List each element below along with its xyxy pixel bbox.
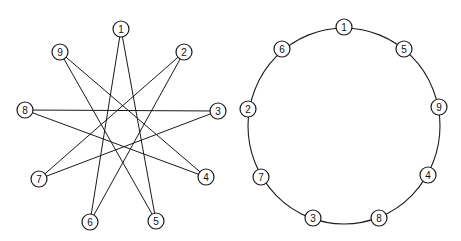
edge-7-2 (39, 52, 184, 179)
ring-node-4: 4 (420, 167, 436, 183)
node-label: 9 (57, 47, 63, 58)
node-label: 5 (153, 216, 159, 227)
edge-3-7 (39, 111, 218, 179)
star-polygon-diagram: 123456789 (17, 21, 226, 230)
ring-node-2: 2 (240, 101, 256, 117)
node-label: 7 (36, 174, 42, 185)
node-label: 6 (279, 44, 285, 55)
star-node-9: 9 (52, 44, 68, 60)
edge-1-5 (121, 29, 156, 221)
node-label: 3 (310, 213, 316, 224)
ring-node-8: 8 (371, 210, 387, 226)
node-label: 8 (376, 213, 382, 224)
node-label: 3 (215, 106, 221, 117)
ring-node-1: 1 (336, 19, 352, 35)
star-node-2: 2 (176, 44, 192, 60)
ring-node-9: 9 (431, 99, 447, 115)
star-node-8: 8 (17, 102, 33, 118)
node-label: 1 (118, 24, 124, 35)
star-node-3: 3 (210, 103, 226, 119)
star-node-5: 5 (148, 213, 164, 229)
ring-node-3: 3 (305, 210, 321, 226)
node-label: 5 (401, 44, 407, 55)
star-node-6: 6 (82, 214, 98, 230)
ring-node-7: 7 (253, 169, 269, 185)
ring-node-5: 5 (396, 41, 412, 57)
node-label: 1 (341, 22, 347, 33)
star-node-7: 7 (31, 171, 47, 187)
node-label: 7 (258, 172, 264, 183)
node-label: 4 (203, 172, 209, 183)
cycle-ring-diagram: 159483726 (240, 19, 447, 226)
node-label: 2 (181, 47, 187, 58)
cycle-ring-circle (248, 28, 440, 224)
node-label: 2 (245, 104, 251, 115)
node-label: 8 (22, 105, 28, 116)
node-label: 4 (425, 170, 431, 181)
ring-nodes: 159483726 (240, 19, 447, 226)
star-node-4: 4 (198, 169, 214, 185)
edge-8-3 (25, 110, 218, 111)
node-label: 6 (87, 217, 93, 228)
ring-node-6: 6 (274, 41, 290, 57)
edge-5-9 (60, 52, 156, 221)
edge-9-4 (60, 52, 206, 177)
node-label: 9 (436, 102, 442, 113)
diagram-canvas: 123456789 159483726 (0, 0, 461, 241)
star-nodes: 123456789 (17, 21, 226, 230)
star-node-1: 1 (113, 21, 129, 37)
